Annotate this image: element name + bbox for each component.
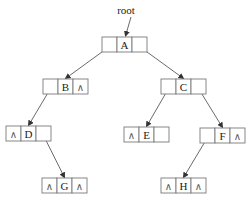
node-label: E [143, 129, 150, 141]
null-pointer-icon: ∧ [76, 181, 83, 192]
edges-layer [29, 47, 223, 178]
null-pointer-icon: ∧ [234, 131, 241, 142]
node-label: D [25, 128, 33, 140]
right-pointer-field [154, 127, 169, 142]
tree-node-c: C [161, 79, 206, 94]
left-pointer-field [200, 128, 215, 143]
tree-node-a: A [102, 37, 147, 52]
null-pointer-icon: ∧ [10, 129, 17, 140]
node-label: C [180, 81, 187, 93]
tree-node-e: E∧ [124, 127, 169, 142]
node-label: A [121, 39, 129, 51]
null-pointer-icon: ∧ [195, 181, 202, 192]
node-label: B [62, 81, 69, 93]
left-pointer-field [161, 79, 176, 94]
null-pointer-icon: ∧ [165, 181, 172, 192]
tree-node-f: F∧ [200, 128, 245, 143]
null-pointer-icon: ∧ [46, 181, 53, 192]
right-pointer-field [191, 79, 206, 94]
tree-node-h: H∧∧ [161, 178, 206, 193]
null-pointer-icon: ∧ [128, 130, 135, 141]
nodes-layer: AB∧CD∧E∧F∧G∧∧H∧∧ [6, 37, 245, 193]
left-pointer-field [102, 37, 117, 52]
right-pointer-field [36, 126, 51, 141]
node-label: H [180, 180, 188, 192]
right-pointer-field [132, 37, 147, 52]
root-pointer-arrow [126, 17, 132, 36]
root-label: root [117, 4, 135, 16]
edge-f-to-h [184, 138, 208, 178]
tree-node-b: B∧ [43, 79, 88, 94]
tree-node-g: G∧∧ [42, 178, 87, 193]
binary-tree-diagram: root AB∧CD∧E∧F∧G∧∧H∧∧ [0, 0, 247, 202]
tree-node-d: D∧ [6, 126, 51, 141]
left-pointer-field [43, 79, 58, 94]
edge-d-to-g [44, 136, 65, 178]
node-label: F [219, 130, 225, 142]
null-pointer-icon: ∧ [77, 82, 84, 93]
node-label: G [61, 180, 69, 192]
